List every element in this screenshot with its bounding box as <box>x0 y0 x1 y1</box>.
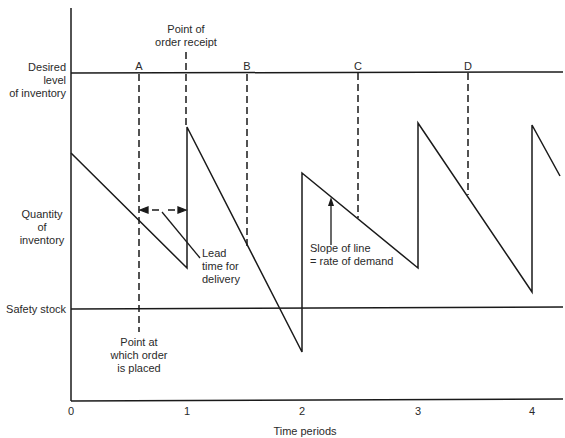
safety-stock-label: Safety stock <box>4 303 66 316</box>
safety-stock-line <box>71 307 563 309</box>
desired-level-label: Desired level of inventory <box>4 61 66 100</box>
quantity-label: Quantity of inventory <box>18 208 66 247</box>
order-point-d: D <box>461 60 475 73</box>
slope-arrow <box>328 197 334 245</box>
inventory-level-line <box>71 123 560 352</box>
x-tick-3: 3 <box>411 405 425 418</box>
order-placed-annotation: Point at which order is placed <box>106 336 172 375</box>
x-axis <box>71 399 563 401</box>
lead-time-annotation: Lead time for delivery <box>202 247 240 286</box>
x-tick-4: 4 <box>525 405 539 418</box>
order-point-a: A <box>132 60 146 73</box>
slope-annotation: Slope of line = rate of demand <box>310 242 393 268</box>
x-tick-0: 0 <box>64 405 78 418</box>
x-tick-1: 1 <box>180 405 194 418</box>
order-point-b: B <box>240 60 254 73</box>
order-point-c: C <box>351 60 365 73</box>
order-receipt-annotation: Point of order receipt <box>150 23 222 49</box>
x-tick-2: 2 <box>295 405 309 418</box>
x-axis-label: Time periods <box>260 425 350 438</box>
